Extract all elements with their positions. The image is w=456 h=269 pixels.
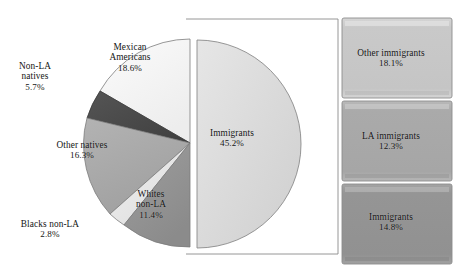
pie-slice-immigrants[interactable] xyxy=(197,40,301,248)
chart-canvas xyxy=(0,0,456,269)
box3-bottom-bevel xyxy=(345,257,449,261)
breakout-box-la-immigrants[interactable] xyxy=(342,101,452,181)
pie-chart-figure: Mexican Americans 18.6% Non-LA natives 5… xyxy=(0,0,456,269)
box1-bottom-bevel xyxy=(345,91,449,95)
breakout-box-stack xyxy=(342,18,452,264)
box3-top-bevel xyxy=(345,187,449,192)
breakout-box-other-immigrants[interactable] xyxy=(342,18,452,98)
box1-top-bevel xyxy=(345,21,449,26)
pie-slices xyxy=(84,39,301,248)
box2-top-bevel xyxy=(345,104,449,109)
box2-bottom-bevel xyxy=(345,174,449,178)
breakout-box-immigrants[interactable] xyxy=(342,184,452,264)
